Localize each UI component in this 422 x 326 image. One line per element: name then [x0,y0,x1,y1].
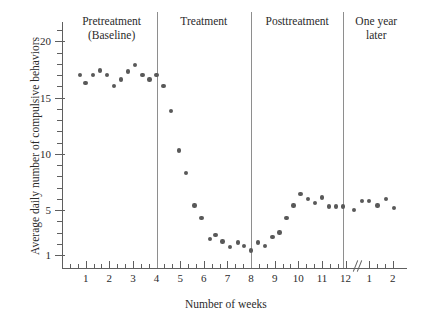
y-tick-minor [57,64,63,65]
data-point [169,109,173,113]
y-tick-minor [57,188,63,189]
x-tick-minor [220,264,221,269]
y-tick-major [55,255,65,256]
y-tick-minor [57,131,63,132]
x-tick-minor [306,264,307,269]
y-tick-minor [57,109,63,110]
data-point [320,195,324,199]
x-tick-label: 2 [98,272,120,284]
x-axis-title: Number of weeks [185,298,267,310]
y-tick-major [55,98,65,99]
data-point [91,73,95,77]
x-tick-minor [377,264,378,269]
data-point [313,201,317,205]
x-tick-major [346,261,347,269]
x-tick-minor [70,264,71,269]
x-tick-minor [267,264,268,269]
data-point [133,63,137,67]
data-point [184,171,188,175]
x-tick-minor [125,264,126,269]
x-axis-break-icon [352,259,366,273]
x-tick-major [204,261,205,269]
x-tick-label: 11 [311,272,333,284]
x-tick-label: 1 [358,272,380,284]
x-tick-major [180,261,181,269]
y-tick-minor [57,233,63,234]
x-tick-label: 4 [146,272,168,284]
x-tick-minor [385,264,386,269]
x-tick-minor [259,264,260,269]
data-point [392,206,396,210]
data-point [306,197,310,201]
compulsive-behaviors-scatter-chart: 15101520 12345678910111212 Average daily… [0,0,422,326]
data-point [352,208,356,212]
data-point [192,203,196,207]
x-tick-minor [235,264,236,269]
x-tick-label: 6 [193,272,215,284]
y-tick-minor [57,86,63,87]
x-tick-minor [196,264,197,269]
x-tick-minor [149,264,150,269]
x-tick-minor [101,264,102,269]
data-point [270,235,274,239]
x-tick-major [275,261,276,269]
x-tick-major [227,261,228,269]
y-tick-minor [57,221,63,222]
data-point [360,199,364,203]
x-tick-minor [172,264,173,269]
data-point [341,204,345,208]
data-point [119,77,123,81]
x-tick-label: 1 [75,272,97,284]
data-point [242,244,246,248]
data-point [177,148,181,152]
x-tick-minor [164,264,165,269]
data-point [213,233,217,237]
data-point [334,204,338,208]
x-tick-minor [188,264,189,269]
data-point [105,73,109,77]
y-tick-minor [57,53,63,54]
x-tick-minor [283,264,284,269]
y-tick-minor [57,244,63,245]
x-tick-label: 3 [122,272,144,284]
data-point [98,68,102,72]
x-tick-label: 9 [264,272,286,284]
y-tick-minor [57,143,63,144]
x-tick-label: 10 [287,272,309,284]
x-tick-minor [314,264,315,269]
data-point [220,239,224,243]
x-tick-major [86,261,87,269]
data-point [249,248,253,252]
data-point [199,216,203,220]
x-tick-label: 12 [335,272,357,284]
data-point [112,84,116,88]
data-point [384,197,388,201]
data-point [126,69,130,73]
data-point [140,73,144,77]
x-tick-label: 2 [382,272,404,284]
x-tick-minor [338,264,339,269]
x-tick-major [298,261,299,269]
data-point [161,84,165,88]
data-point [256,240,260,244]
x-tick-minor [94,264,95,269]
x-tick-minor [290,264,291,269]
y-tick-major [55,154,65,155]
data-point [78,73,82,77]
phase-divider-line [251,12,252,268]
x-tick-label: 7 [216,272,238,284]
y-axis-title: Average daily number of compulsive behav… [29,21,41,271]
phase-divider-line [157,12,158,268]
y-tick-minor [57,176,63,177]
y-tick-minor [57,120,63,121]
data-point [277,230,281,234]
data-point [228,245,232,249]
y-tick-minor [57,165,63,166]
data-point [147,77,151,81]
y-tick-minor [57,199,63,200]
x-tick-minor [117,264,118,269]
phase-label-one-year-later: One year later [321,14,422,42]
data-point [291,203,295,207]
x-tick-major [133,261,134,269]
x-tick-major [109,261,110,269]
